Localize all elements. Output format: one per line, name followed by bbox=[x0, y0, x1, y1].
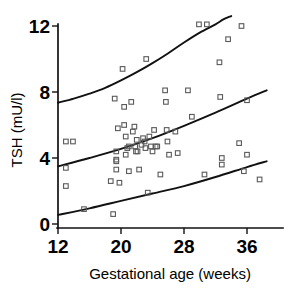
tsh-gestational-age-scatter-figure: 04812 12202836 Gestational age (weeks) T… bbox=[0, 0, 290, 292]
median-reference-curve bbox=[58, 90, 267, 166]
y-axis-tick-labels: 04812 bbox=[29, 16, 51, 235]
lower-reference-curve bbox=[58, 161, 267, 215]
data-point-marker bbox=[197, 22, 202, 27]
data-point-marker bbox=[137, 167, 142, 172]
data-point-marker bbox=[112, 96, 117, 101]
data-point-marker bbox=[116, 126, 121, 131]
y-axis-ticks bbox=[52, 26, 58, 224]
upper-reference-curve bbox=[58, 16, 231, 103]
data-point-marker bbox=[175, 151, 180, 156]
data-point-marker bbox=[217, 60, 222, 65]
data-point-marker bbox=[64, 184, 69, 189]
data-point-marker bbox=[141, 136, 146, 141]
x-tick-label-28: 28 bbox=[173, 236, 194, 257]
data-point-marker bbox=[242, 169, 247, 174]
y-axis-title: TSH (mU/l) bbox=[8, 93, 25, 168]
axes-group bbox=[57, 24, 283, 228]
data-point-marker bbox=[163, 88, 168, 93]
data-point-marker bbox=[239, 24, 244, 29]
data-point-marker bbox=[186, 88, 191, 93]
data-point-marker bbox=[245, 152, 250, 157]
x-tick-label-36: 36 bbox=[236, 236, 257, 257]
x-tick-label-20: 20 bbox=[110, 236, 131, 257]
data-point-marker bbox=[152, 128, 157, 133]
data-point-marker bbox=[134, 149, 139, 154]
y-tick-label-8: 8 bbox=[39, 82, 50, 103]
data-point-marker bbox=[123, 152, 128, 157]
data-point-marker bbox=[205, 22, 210, 27]
y-tick-label-4: 4 bbox=[39, 148, 50, 169]
data-point-marker bbox=[226, 37, 231, 42]
data-point-marker bbox=[114, 167, 119, 172]
data-point-marker bbox=[257, 177, 262, 182]
data-point-marker bbox=[165, 139, 170, 144]
data-point-marker bbox=[155, 144, 160, 149]
data-point-marker bbox=[122, 123, 127, 128]
data-point-marker bbox=[190, 114, 195, 119]
data-point-marker bbox=[167, 152, 172, 157]
data-point-marker bbox=[149, 144, 154, 149]
data-point-marker bbox=[153, 144, 158, 149]
data-point-marker bbox=[220, 162, 225, 167]
x-tick-label-12: 12 bbox=[47, 236, 68, 257]
data-point-marker bbox=[144, 57, 149, 62]
data-point-marker bbox=[134, 138, 139, 143]
data-point-marker bbox=[164, 100, 169, 105]
data-point-marker bbox=[202, 172, 207, 177]
data-point-marker bbox=[122, 105, 127, 110]
data-point-marker bbox=[132, 124, 137, 129]
data-point-marker bbox=[129, 100, 134, 105]
data-point-marker bbox=[120, 67, 125, 72]
data-point-marker bbox=[237, 141, 242, 146]
y-tick-label-12: 12 bbox=[29, 16, 50, 37]
data-point-marker bbox=[64, 166, 69, 171]
data-point-marker bbox=[71, 139, 76, 144]
data-point-marker bbox=[64, 139, 69, 144]
data-point-marker bbox=[135, 149, 140, 154]
data-point-marker bbox=[123, 134, 128, 139]
data-point-marker bbox=[220, 156, 225, 161]
data-point-marker bbox=[158, 172, 163, 177]
data-point-marker bbox=[127, 169, 132, 174]
data-point-marker bbox=[150, 149, 155, 154]
x-axis-ticks bbox=[58, 228, 247, 234]
x-axis-tick-labels: 12202836 bbox=[47, 236, 257, 257]
data-point-marker bbox=[218, 95, 223, 100]
reference-curves-group bbox=[58, 16, 267, 215]
data-point-marker bbox=[108, 179, 113, 184]
data-points-group bbox=[64, 22, 262, 216]
plot-canvas: 04812 12202836 Gestational age (weeks) T… bbox=[0, 0, 290, 292]
data-point-marker bbox=[131, 129, 136, 134]
data-point-marker bbox=[117, 180, 122, 185]
x-axis-title: Gestational age (weeks) bbox=[89, 265, 251, 282]
data-point-marker bbox=[114, 157, 119, 162]
data-point-marker bbox=[111, 212, 116, 217]
data-point-marker bbox=[114, 159, 119, 164]
y-tick-label-0: 0 bbox=[39, 214, 50, 235]
